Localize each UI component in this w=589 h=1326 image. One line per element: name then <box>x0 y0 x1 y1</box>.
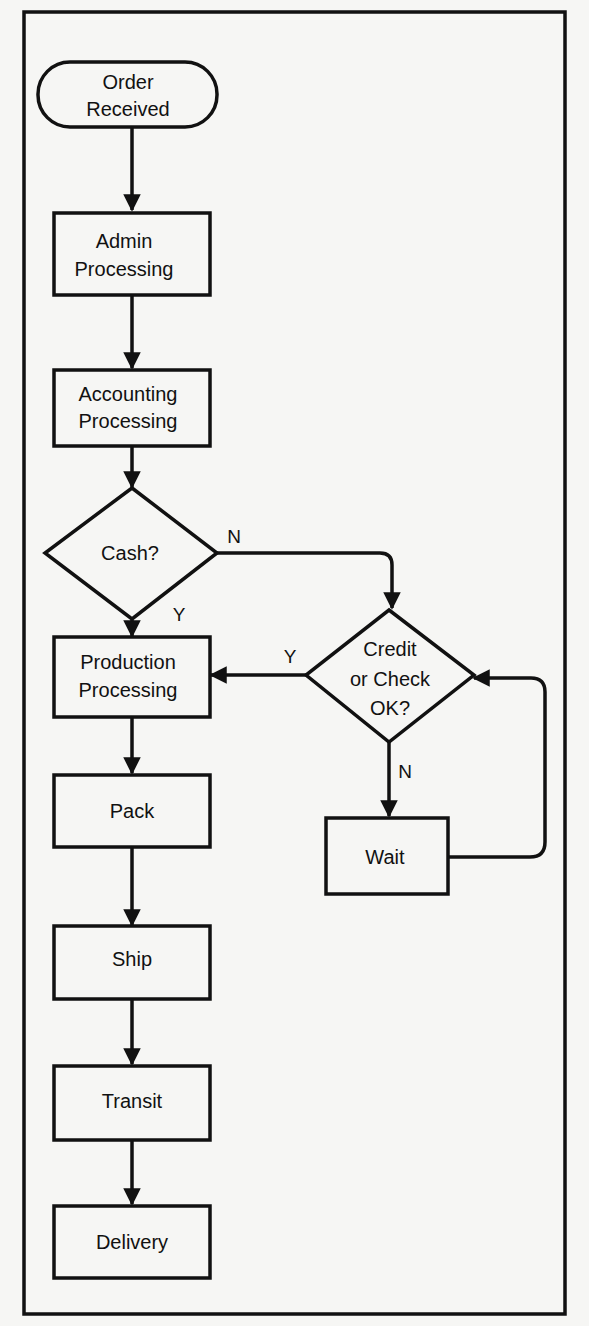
edge-label-credit-no: N <box>398 761 412 782</box>
node-label: Transit <box>102 1090 163 1112</box>
node-credit-decision: Credit or Check OK? <box>306 610 474 742</box>
node-label: or Check <box>350 668 431 690</box>
node-label: Delivery <box>96 1231 168 1253</box>
flowchart: Order Received Admin Processing Accounti… <box>0 0 589 1326</box>
node-wait: Wait <box>326 818 448 894</box>
node-label: Processing <box>79 679 178 701</box>
node-delivery: Delivery <box>54 1206 210 1278</box>
node-label: Received <box>86 98 169 120</box>
edge-label-cash-yes: Y <box>173 604 186 625</box>
node-pack: Pack <box>54 775 210 847</box>
node-label: Cash? <box>101 542 159 564</box>
node-order-received: Order Received <box>38 62 217 127</box>
edge-wait-loop-to-credit <box>448 678 545 857</box>
node-label: Pack <box>110 800 155 822</box>
node-label: OK? <box>370 697 410 719</box>
edge-label-credit-yes: Y <box>284 646 297 667</box>
node-label: Order <box>102 71 153 93</box>
node-label: Wait <box>365 846 405 868</box>
node-label: Processing <box>75 258 174 280</box>
node-label: Admin <box>96 230 153 252</box>
node-production-processing: Production Processing <box>54 637 210 717</box>
node-label: Ship <box>112 948 152 970</box>
node-label: Credit <box>363 638 417 660</box>
node-accounting-processing: Accounting Processing <box>54 370 210 446</box>
node-transit: Transit <box>54 1066 210 1140</box>
edge-cash-no-to-credit <box>217 553 392 608</box>
edge-label-cash-no: N <box>227 526 241 547</box>
node-ship: Ship <box>54 926 210 999</box>
node-admin-processing: Admin Processing <box>54 213 210 295</box>
node-cash-decision: Cash? <box>45 488 217 619</box>
node-label: Production <box>80 651 176 673</box>
node-label: Processing <box>79 410 178 432</box>
node-label: Accounting <box>79 383 178 405</box>
